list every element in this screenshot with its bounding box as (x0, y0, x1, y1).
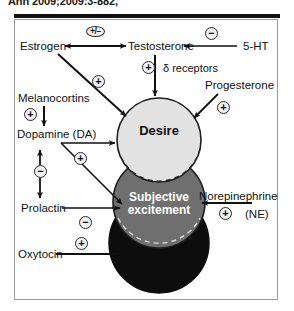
node-prolactin: Prolactin (21, 202, 66, 214)
citation-text: Ann 2009;2009:3-882, (8, 0, 218, 7)
node-delta-receptors: δ receptors (163, 62, 218, 74)
sign-badge-oxytocin-orgasm: + (75, 237, 88, 250)
sign-badge-serotonin-testosterone: − (205, 27, 218, 40)
sign-badge-norepinephrine-subjective: + (219, 207, 232, 220)
node-estrogen: Estrogen (20, 40, 66, 52)
node-melanocortins: Melanocortins (18, 92, 90, 104)
sign-badge-melanocortins-dopamine: + (24, 108, 37, 121)
circle-label-subjective-excitement: Subjective excitement (113, 191, 205, 217)
node-oxytocin: Oxytocin (18, 248, 63, 260)
figure-stage: Ann 2009;2009:3-882, (0, 0, 294, 311)
node-dopamine: Dopamine (DA) (17, 128, 96, 140)
node-serotonin: 5-HT (243, 40, 269, 52)
circle-label-desire: Desire (126, 124, 192, 137)
node-norepinephrine: Norepinephrine (199, 190, 278, 202)
sign-badge-estrogen-testosterone: +/− (86, 26, 105, 37)
node-norepinephrine-abbr: (NE) (245, 208, 269, 220)
header-rule (14, 14, 280, 18)
sign-badge-delta-receptors: + (142, 61, 155, 74)
sign-badge-estrogen-desire: + (92, 75, 105, 88)
sign-badge-dopamine-outputs: + (74, 152, 87, 165)
sign-badge-progesterone-desire: + (217, 101, 230, 114)
node-testosterone: Testosterone (128, 40, 194, 52)
circle-label-subjective-line2: excitement (113, 204, 205, 217)
sign-badge-dopamine-prolactin: − (34, 165, 47, 178)
node-progesterone: Progesterone (205, 79, 274, 91)
sign-badge-prolactin-subjective: − (79, 216, 92, 229)
